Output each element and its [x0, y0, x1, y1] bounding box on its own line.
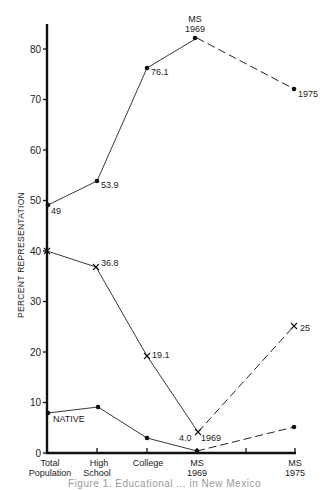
series-top: 49 53.9 76.1 MS 1969 1975	[46, 14, 318, 216]
svg-text:53.9: 53.9	[101, 180, 119, 190]
y-tick-labels: 0 10 20 30 40 50 60 70 80	[30, 44, 42, 459]
svg-text:MS: MS	[190, 458, 204, 468]
svg-text:College: College	[133, 458, 164, 468]
svg-text:MS: MS	[288, 458, 302, 468]
svg-text:50: 50	[30, 195, 42, 206]
svg-text:76.1: 76.1	[151, 67, 169, 77]
svg-text:4.0: 4.0	[179, 433, 192, 443]
svg-text:30: 30	[30, 296, 42, 307]
native-label: NATIVE	[53, 414, 85, 424]
svg-text:60: 60	[30, 145, 42, 156]
svg-text:36.8: 36.8	[101, 258, 119, 268]
svg-text:40: 40	[30, 246, 42, 257]
svg-text:25: 25	[300, 323, 310, 333]
svg-text:High: High	[90, 458, 109, 468]
series-native: NATIVE	[46, 405, 297, 454]
svg-text:20: 20	[30, 347, 42, 358]
svg-text:80: 80	[30, 44, 42, 55]
y-axis-label: PERCENT REPRESENTATION	[16, 192, 26, 318]
svg-text:1975: 1975	[285, 468, 305, 478]
figure-caption: Figure 1. Educational ... in New Mexico	[0, 478, 329, 489]
svg-text:70: 70	[30, 94, 42, 105]
svg-text:1975: 1975	[298, 89, 318, 99]
line-chart: 0 10 20 30 40 50 60 70 80 PERCENT REPRES…	[0, 0, 329, 490]
svg-text:1969: 1969	[185, 24, 205, 34]
svg-text:MS: MS	[188, 14, 202, 24]
svg-text:Population: Population	[29, 468, 72, 478]
svg-text:49: 49	[51, 206, 61, 216]
svg-text:1969: 1969	[187, 468, 207, 478]
svg-text:Total: Total	[40, 458, 59, 468]
x-tick-labels: Total Population High School College MS …	[29, 458, 305, 478]
svg-text:School: School	[83, 468, 111, 478]
svg-text:19.1: 19.1	[152, 350, 170, 360]
svg-text:10: 10	[30, 397, 42, 408]
svg-text:1969: 1969	[201, 433, 221, 443]
